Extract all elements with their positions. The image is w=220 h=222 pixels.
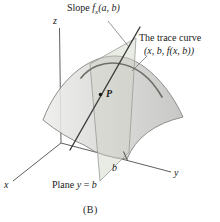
- plane-label-equals: =: [81, 179, 92, 190]
- y-axis-label: y: [174, 167, 178, 178]
- b-tick-label: b: [112, 162, 117, 173]
- plane-label-b: b: [92, 179, 97, 190]
- figure-caption: (B): [83, 204, 98, 215]
- x-axis-label: x: [4, 179, 8, 190]
- slope-label: Slope fx(a, b): [67, 2, 120, 13]
- trace-curve-label-line2: (x, b, f(x, b)): [144, 45, 194, 56]
- x-axis: [13, 143, 61, 181]
- point-p-label: P: [106, 88, 112, 99]
- plane-label: Plane y = b: [52, 179, 97, 190]
- trace-curve-label-line1: The trace curve: [139, 32, 201, 43]
- z-axis-label: z: [53, 15, 57, 26]
- figure-partial-derivative-trace: Slope fx(a, b) The trace curve (x, b, f(…: [0, 0, 220, 222]
- point-p-dot: [99, 93, 103, 97]
- slope-label-prefix: Slope: [67, 2, 92, 13]
- plane-label-prefix: Plane: [52, 179, 77, 190]
- slope-label-leader-line: [108, 21, 129, 47]
- slope-label-args: (a, b): [98, 2, 120, 13]
